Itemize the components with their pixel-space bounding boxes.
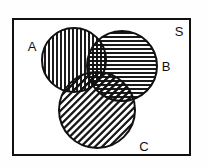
venn-diagram-figure: A B C S [0, 0, 208, 168]
set-B-label: B [162, 59, 171, 74]
venn-diagram-canvas: A B C S [0, 0, 208, 168]
universal-set-label: S [175, 24, 184, 39]
set-C-label: C [139, 139, 148, 154]
set-A-label: A [28, 39, 37, 54]
